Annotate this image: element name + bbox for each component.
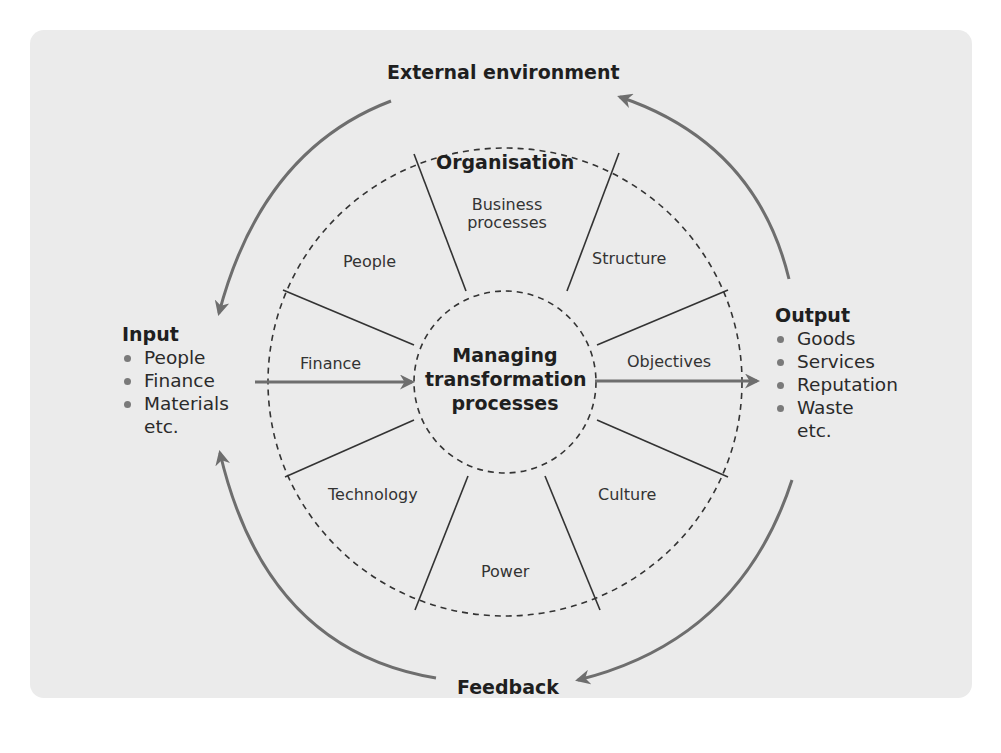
output-to-feedback-arrow [578,480,792,680]
segment-business-processes-line1: Business [462,196,552,214]
output-item: Goods [775,327,898,350]
input-more: etc. [122,415,229,438]
input-item: People [122,346,229,369]
input-item: Finance [122,369,229,392]
feedback-label: Feedback [457,677,559,699]
segment-business-processes: Business processes [462,196,552,233]
external-to-input-arrow [219,101,391,313]
output-block: Output Goods Services Reputation Waste e… [775,303,898,442]
organisation-label: Organisation [436,152,574,174]
output-item: Reputation [775,373,898,396]
segment-culture: Culture [598,486,656,504]
core-process-line3: processes [425,392,585,416]
external-environment-label: External environment [387,62,620,84]
segment-finance: Finance [300,355,361,373]
segment-structure: Structure [592,250,666,268]
output-item: Waste [775,396,898,419]
input-heading: Input [122,322,229,346]
input-list: People Finance Materials etc. [122,346,229,438]
output-item: Services [775,350,898,373]
segment-people: People [343,253,396,271]
input-item: Materials [122,392,229,415]
output-more: etc. [775,419,898,442]
segment-business-processes-line2: processes [462,214,552,232]
core-process-line2: transformation [425,368,585,392]
core-process-line1: Managing [425,344,585,368]
input-block: Input People Finance Materials etc. [122,322,229,438]
output-list: Goods Services Reputation Waste etc. [775,327,898,442]
output-heading: Output [775,303,898,327]
segment-technology: Technology [328,486,418,504]
core-process-label: Managing transformation processes [425,344,585,415]
segment-power: Power [481,563,529,581]
segment-objectives: Objectives [627,353,711,371]
